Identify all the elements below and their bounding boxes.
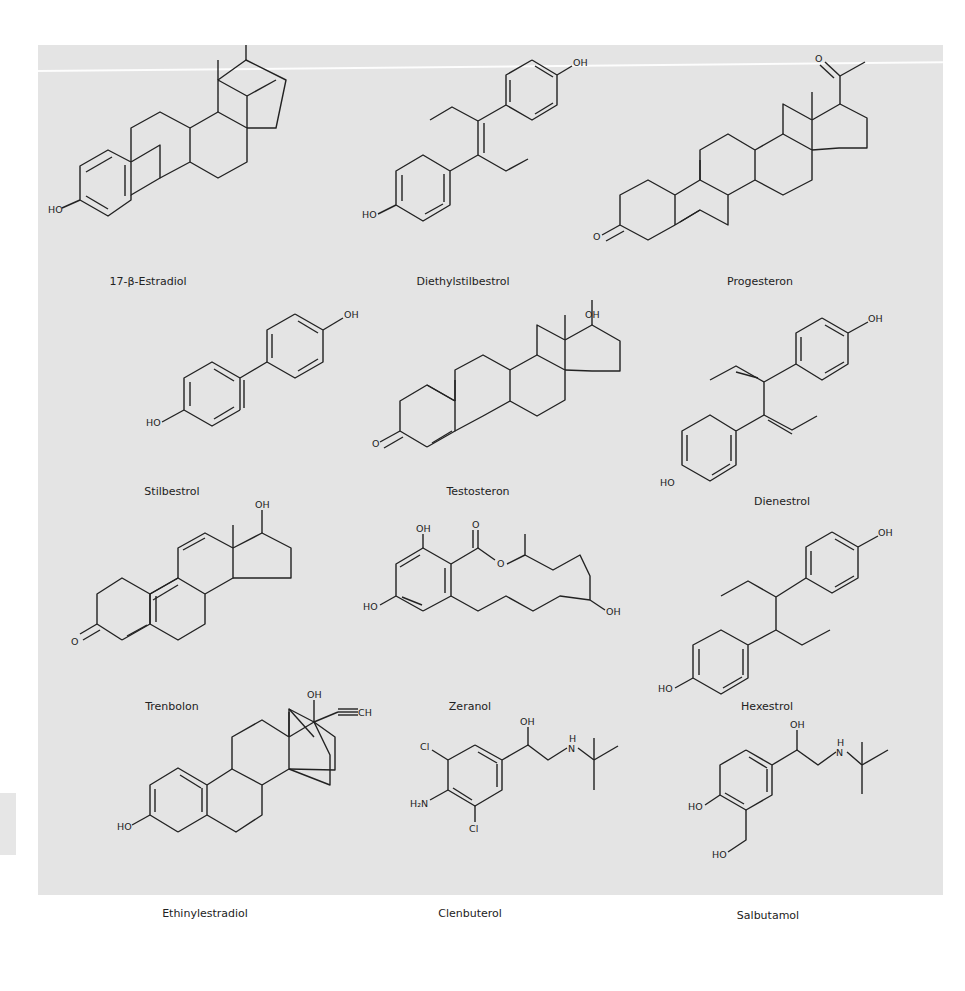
structure-trenbolon	[80, 510, 291, 640]
svg-text:OH: OH	[307, 689, 322, 700]
structure-progesteron	[602, 62, 867, 241]
svg-text:O: O	[472, 519, 479, 530]
structure-salbutamol	[705, 730, 888, 852]
svg-text:HO: HO	[660, 477, 675, 488]
svg-text:Cl: Cl	[469, 823, 478, 834]
svg-text:HO: HO	[362, 209, 377, 220]
structure-hexestrol	[675, 532, 878, 694]
structure-stilbestrol	[162, 314, 343, 426]
svg-text:HO: HO	[688, 801, 703, 812]
svg-text:N: N	[568, 743, 575, 754]
chemical-structures-figure: OH HO OH HO O O OH HO O OH OH HO O OH OH…	[38, 45, 943, 895]
svg-text:O: O	[497, 558, 504, 569]
structure-clenbuterol	[430, 727, 618, 822]
svg-text:OH: OH	[878, 527, 893, 538]
svg-text:H: H	[837, 737, 844, 748]
structure-dienestrol	[682, 318, 868, 481]
svg-text:O: O	[593, 231, 600, 242]
svg-text:H: H	[569, 733, 576, 744]
structure-zeranol	[380, 530, 605, 611]
svg-text:OH: OH	[344, 309, 359, 320]
svg-text:OH: OH	[606, 606, 621, 617]
structure-estradiol	[62, 45, 286, 216]
svg-text:OH: OH	[868, 313, 883, 324]
compound-label-stilbestrol: Stilbestrol	[144, 485, 199, 498]
svg-text:OH: OH	[585, 309, 600, 320]
compound-label-salbutamol: Salbutamol	[737, 909, 799, 922]
svg-text:N: N	[836, 747, 843, 758]
svg-text:OH: OH	[790, 719, 805, 730]
structures-canvas: OH HO OH HO O O OH HO O OH OH HO O OH OH…	[38, 45, 943, 895]
svg-text:HO: HO	[146, 417, 161, 428]
svg-text:OH: OH	[255, 499, 270, 510]
compound-label-zeranol: Zeranol	[449, 700, 491, 713]
svg-text:H₂N: H₂N	[410, 798, 428, 809]
page-edge-tab	[0, 793, 16, 855]
svg-text:HO: HO	[712, 849, 727, 860]
svg-text:OH: OH	[416, 523, 431, 534]
svg-text:OH: OH	[573, 57, 588, 68]
svg-text:HO: HO	[117, 821, 132, 832]
structure-diethylstilbestrol	[378, 60, 572, 221]
svg-text:HO: HO	[48, 204, 63, 215]
svg-text:HO: HO	[658, 683, 673, 694]
compound-label-trenbolon: Trenbolon	[145, 700, 199, 713]
compound-label-dienestrol: Dienestrol	[754, 495, 810, 508]
compound-label-testosteron: Testosteron	[446, 485, 509, 498]
compound-label-estradiol: 17-β-Estradiol	[109, 275, 186, 288]
compound-label-progesteron: Progesteron	[727, 275, 793, 288]
svg-text:O: O	[71, 636, 78, 647]
svg-text:OH: OH	[520, 716, 535, 727]
svg-text:CH: CH	[358, 707, 372, 718]
compound-label-diethylstilbestrol: Diethylstilbestrol	[416, 275, 509, 288]
compound-label-clenbuterol: Clenbuterol	[438, 907, 502, 920]
compound-label-ethinylestradiol: Ethinylestradiol	[162, 907, 248, 920]
compound-label-hexestrol: Hexestrol	[741, 700, 793, 713]
svg-text:HO: HO	[363, 601, 378, 612]
svg-text:O: O	[372, 438, 379, 449]
atom-labels: OH HO OH HO O O OH HO O OH OH HO O OH OH…	[48, 45, 893, 860]
structure-ethinylestradiol	[132, 700, 358, 832]
structure-testosteron	[380, 300, 620, 448]
svg-text:Cl: Cl	[420, 741, 429, 752]
svg-text:O: O	[815, 53, 822, 64]
